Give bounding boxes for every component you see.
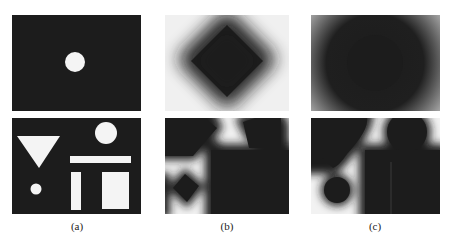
horizontal-bar [70, 156, 131, 163]
panel-a-bottom [12, 118, 141, 214]
wide-rectangle [102, 172, 129, 209]
panel-b-top [165, 15, 289, 111]
caption-b: (b) [207, 220, 247, 232]
circle-core [347, 35, 403, 91]
panel-c-bottom [311, 118, 440, 214]
caption-a: (a) [57, 220, 97, 232]
panel-c-top [311, 15, 440, 111]
narrow-rectangle [71, 172, 81, 210]
large-white-circle [95, 122, 117, 144]
small-white-circle [31, 184, 42, 195]
caption-c: (c) [355, 220, 395, 232]
white-circle [65, 52, 85, 72]
panel-a-top [12, 15, 141, 111]
panel-b-bottom [165, 118, 289, 214]
